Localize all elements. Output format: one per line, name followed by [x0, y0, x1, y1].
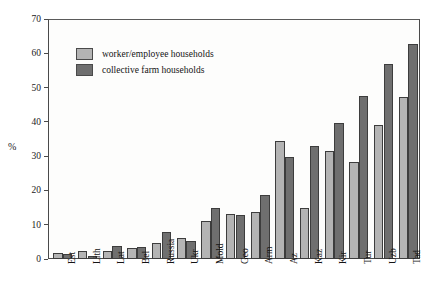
x-axis-tick-label: Lat [116, 251, 126, 264]
bar [275, 141, 284, 259]
x-axis-tick-label: Est [67, 252, 77, 264]
x-axis-tick-label: Russia [166, 239, 176, 264]
x-axis-tick-label: Arm [264, 247, 274, 264]
x-axis-tick-label: Ukr [190, 249, 200, 264]
bar [399, 97, 408, 259]
x-axis-tick-label: Az [289, 253, 299, 264]
bars-area [49, 20, 419, 259]
bar [349, 162, 358, 259]
x-axis-tick-label: Lith [92, 248, 102, 264]
x-axis-tick-label: Tur [363, 251, 373, 264]
bar [201, 221, 210, 259]
bar [384, 64, 393, 259]
bar [285, 157, 294, 259]
x-axis-tick-label: Kir [338, 251, 348, 264]
bar [152, 243, 161, 259]
bar [177, 238, 186, 259]
x-axis-tick-label: Mold [215, 243, 225, 264]
bar-chart: 010203040506070 % worker/employee househ… [0, 0, 438, 307]
bar [78, 251, 87, 259]
bar [334, 123, 343, 259]
x-axis-tick-label: Uzb [388, 248, 398, 264]
bar [300, 208, 309, 259]
bar [408, 44, 417, 259]
bar [53, 253, 62, 259]
y-axis-title: % [8, 141, 16, 152]
x-axis-tick-label: Kaz [314, 249, 324, 264]
x-axis-tick-label: Geo [240, 248, 250, 264]
bar [325, 151, 334, 259]
bar [226, 214, 235, 259]
bar [127, 248, 136, 259]
bar [374, 125, 383, 259]
x-axis-labels: EstLithLatBelRussiaUkrMoldGeoArmAzKazKir… [49, 262, 419, 307]
bar [103, 251, 112, 259]
x-axis-tick-label: Bel [141, 251, 151, 264]
bar [310, 146, 319, 259]
bar [251, 212, 260, 259]
bar [359, 96, 368, 259]
x-axis-tick-label: Tad [412, 250, 422, 264]
